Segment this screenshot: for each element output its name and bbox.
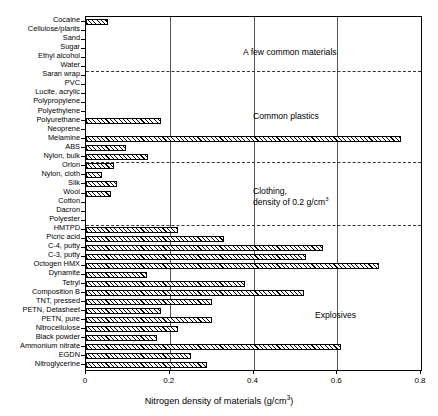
y-tick — [81, 111, 85, 112]
y-tick — [81, 147, 85, 148]
y-tick — [81, 337, 85, 338]
y-tick — [81, 256, 85, 257]
category-label-petn-pure: PETN, pure — [0, 315, 80, 323]
annotation-explosives: Explosives — [315, 310, 356, 321]
y-tick — [81, 183, 85, 184]
y-tick — [81, 165, 85, 166]
y-tick — [81, 84, 85, 85]
group-separator — [86, 162, 421, 163]
category-label-saran-wrap: Saran wrap — [0, 70, 80, 78]
group-separator — [86, 71, 421, 72]
category-label-octogen-hmx: Octogen HMX — [0, 260, 80, 268]
category-label-cocaine: Cocaine — [0, 16, 80, 24]
y-tick — [81, 247, 85, 248]
y-tick — [81, 39, 85, 40]
bar-nylon-cloth — [86, 172, 102, 178]
x-axis-title-main: Nitrogen density of materials (g/cm — [145, 396, 287, 406]
bar-polyurethane — [86, 118, 161, 124]
annotation-clothing: Clothing,density of 0.2 g/cm3 — [253, 186, 329, 208]
category-label-c-4-putty: C-4, putty — [0, 242, 80, 250]
annotation-common-plastics: Common plastics — [253, 111, 319, 122]
category-label-sugar: Sugar — [0, 43, 80, 51]
y-tick — [81, 102, 85, 103]
bar-black-powder — [86, 335, 157, 341]
category-label-melamine: Melamine — [0, 134, 80, 142]
x-tick-label-0.2: 0.2 — [149, 376, 189, 385]
y-tick — [81, 283, 85, 284]
category-label-nitrocellulose: Nitrocellulose — [0, 324, 80, 332]
category-label-polyethylene: Polyethylene — [0, 107, 80, 115]
y-tick — [81, 238, 85, 239]
y-tick — [81, 328, 85, 329]
y-tick — [81, 66, 85, 67]
annotation-common-materials: A few common materials — [243, 47, 337, 58]
y-tick — [81, 301, 85, 302]
x-tick — [253, 370, 254, 374]
bar-tnt-pressed — [86, 299, 212, 305]
y-tick — [81, 129, 85, 130]
annotation-clothing-line1: Clothing, — [253, 186, 287, 196]
bar-wool — [86, 191, 111, 197]
y-tick — [81, 120, 85, 121]
y-tick — [81, 202, 85, 203]
annotation-clothing-superscript: 3 — [325, 196, 328, 202]
bar-petn-detasheet — [86, 308, 161, 314]
category-label-dynamite: Dynamite — [0, 269, 80, 277]
x-tick — [420, 370, 421, 374]
y-tick — [81, 346, 85, 347]
y-tick — [81, 220, 85, 221]
category-label-wool: Wool — [0, 188, 80, 196]
category-label-polypropylene: Polypropylene — [0, 97, 80, 105]
bar-composition-b — [86, 290, 304, 296]
annotation-common-materials-text: A few common materials — [243, 47, 337, 57]
annotation-explosives-text: Explosives — [315, 310, 356, 320]
category-label-orlon: Orlon — [0, 161, 80, 169]
y-tick — [81, 265, 85, 266]
category-label-nylon-bulk: Nylon, bulk — [0, 152, 80, 160]
category-label-egdn: EGDN — [0, 351, 80, 359]
y-tick — [81, 174, 85, 175]
y-tick — [81, 48, 85, 49]
category-label-cotton: Cotton — [0, 197, 80, 205]
bar-nitroglycerine — [86, 362, 207, 368]
x-tick — [169, 370, 170, 374]
bar-hmtpd — [86, 227, 178, 233]
x-tick — [336, 370, 337, 374]
category-label-c-3-putty: C-3, putty — [0, 251, 80, 259]
y-tick — [81, 274, 85, 275]
nitrogen-density-bar-chart: CocaineCellulose/plantsSandSugarEthyl al… — [0, 0, 438, 416]
category-label-lucite-acrylic: Lucite, acrylic — [0, 88, 80, 96]
category-label-picric-acid: Picric acid — [0, 233, 80, 241]
y-tick — [81, 57, 85, 58]
category-label-composition-b: Composition B — [0, 288, 80, 296]
category-label-petn-detasheet: PETN, Detasheet — [0, 306, 80, 314]
x-tick — [85, 370, 86, 374]
y-tick — [81, 193, 85, 194]
category-label-polyurethane: Polyurethane — [0, 116, 80, 124]
y-tick — [81, 355, 85, 356]
category-label-ethyl-alcohol: Ethyl alcohol — [0, 52, 80, 60]
category-label-abs: ABS — [0, 143, 80, 151]
bar-c-3-putty — [86, 254, 306, 260]
y-tick — [81, 138, 85, 139]
y-tick — [81, 319, 85, 320]
bar-dynamite — [86, 272, 147, 278]
category-label-tnt-pressed: TNT, pressed — [0, 297, 80, 305]
category-label-dacron: Dacron — [0, 206, 80, 214]
y-tick — [81, 211, 85, 212]
x-axis-title: Nitrogen density of materials (g/cm3) — [0, 396, 438, 406]
y-tick — [81, 93, 85, 94]
category-label-nitroglycerine: Nitroglycerine — [0, 360, 80, 368]
category-label-silk: Silk — [0, 179, 80, 187]
bar-picric-acid — [86, 236, 224, 242]
category-label-hmtpd: HMTPD — [0, 224, 80, 232]
category-label-ammonium-nitrate: Ammonium nitrate — [0, 342, 80, 350]
y-tick — [81, 30, 85, 31]
x-tick-label-0.6: 0.6 — [316, 376, 356, 385]
bar-cocaine — [86, 19, 108, 25]
bar-abs — [86, 145, 126, 151]
y-tick — [81, 229, 85, 230]
bar-melamine — [86, 136, 401, 142]
annotation-clothing-line2: density of 0.2 g/cm — [253, 197, 325, 207]
category-label-polyester: Polyester — [0, 215, 80, 223]
